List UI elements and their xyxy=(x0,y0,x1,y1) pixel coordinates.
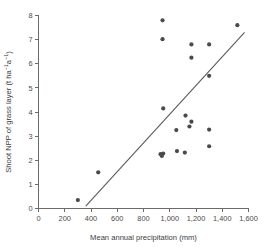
y-tick-label: 0 xyxy=(28,204,32,213)
x-axis-title: Mean annual precipitation (mm) xyxy=(90,233,197,242)
data-point xyxy=(96,170,100,174)
data-point xyxy=(207,42,211,46)
plot-canvas: 01234567802004006008001,0001,2001,4001,6… xyxy=(0,0,269,249)
data-point xyxy=(174,128,178,132)
y-tick-label: 6 xyxy=(28,59,32,68)
y-tick-label: 7 xyxy=(28,35,32,44)
data-point xyxy=(183,150,187,154)
data-point xyxy=(189,56,193,60)
data-point xyxy=(183,114,187,118)
data-point xyxy=(207,144,211,148)
x-tick-label: 200 xyxy=(59,214,71,223)
data-point xyxy=(189,120,193,124)
x-tick-label: 1,000 xyxy=(161,214,180,223)
data-point xyxy=(187,124,191,128)
data-point xyxy=(175,149,179,153)
data-point xyxy=(160,37,164,41)
x-tick-label: 600 xyxy=(111,214,123,223)
y-tick-label: 8 xyxy=(28,11,32,20)
scatter-plot-figure: 01234567802004006008001,0001,2001,4001,6… xyxy=(0,0,269,249)
data-point xyxy=(189,42,193,46)
x-tick-label: 1,400 xyxy=(213,214,232,223)
y-axis-title: Shoot NPP of grass layer (t ha−1a−1) xyxy=(3,51,13,173)
y-tick-label: 2 xyxy=(28,156,32,165)
data-point xyxy=(161,106,165,110)
y-tick-label: 1 xyxy=(28,180,32,189)
y-tick-label: 3 xyxy=(28,132,32,141)
regression-line xyxy=(86,32,245,206)
x-tick-label: 800 xyxy=(137,214,149,223)
data-point xyxy=(207,74,211,78)
x-tick-label: 400 xyxy=(85,214,97,223)
data-point xyxy=(207,128,211,132)
data-point xyxy=(235,23,239,27)
x-tick-label: 0 xyxy=(36,214,40,223)
x-tick-label: 1,600 xyxy=(239,214,258,223)
x-tick-label: 1,200 xyxy=(187,214,206,223)
data-point xyxy=(76,198,80,202)
y-tick-label: 5 xyxy=(28,84,32,93)
y-tick-label: 4 xyxy=(28,108,32,117)
data-point xyxy=(161,151,165,155)
data-point xyxy=(160,18,164,22)
